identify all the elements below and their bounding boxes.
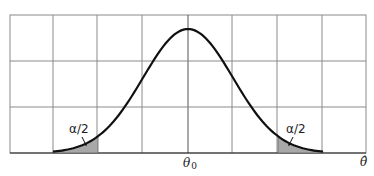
theta-zero-label: θ0	[183, 156, 197, 171]
right-tail-label: α/2	[286, 122, 306, 136]
theta-hat-axis-label: θ̂	[360, 155, 368, 169]
grid	[10, 15, 366, 153]
normal-distribution-chart: α/2 α/2 θ0 θ̂	[0, 0, 374, 176]
left-tail-label: α/2	[69, 122, 89, 136]
